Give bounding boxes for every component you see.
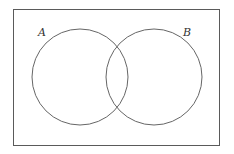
set-a-circle: [32, 29, 128, 125]
set-b-label: B: [182, 26, 191, 39]
set-a-label: A: [37, 26, 46, 39]
venn-diagram: A B: [0, 0, 234, 154]
set-b-circle: [106, 29, 202, 125]
